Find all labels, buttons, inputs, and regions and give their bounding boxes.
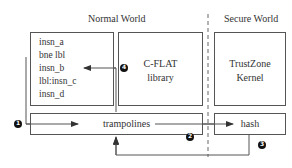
trampolines-label: trampolines [51,118,202,129]
trampolines-box: trampolines [30,113,203,135]
hash-box: hash [214,113,286,135]
code-line: lbl:insn_c [39,75,76,88]
trustzone-kernel-box: TrustZone Kernel [214,32,286,106]
trustzone-subtitle: Kernel [215,71,285,85]
code-line: insn_a [39,36,76,49]
cflat-title: C-FLAT [119,57,202,71]
step-3-label: 3 [260,140,264,147]
cflat-library-box: C-FLAT library [118,32,203,106]
step-1-label: 1 [16,119,20,126]
step-2-label: 2 [188,132,192,139]
code-line: bne lbl [39,49,76,62]
trustzone-title: TrustZone [215,57,285,71]
step-4-label: 4 [122,63,126,70]
hash-label: hash [215,118,285,129]
code-line: insn_b [39,62,76,75]
code-box: insn_a bne lbl insn_b lbl:insn_c insn_d [30,32,114,106]
code-line: insn_d [39,88,76,101]
cflat-subtitle: library [119,71,202,85]
